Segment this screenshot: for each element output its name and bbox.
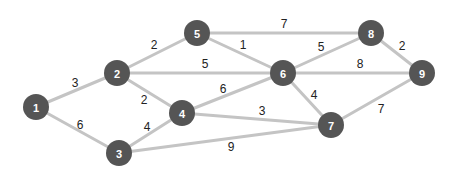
node-9: 9	[409, 60, 435, 86]
node-label: 4	[179, 108, 186, 120]
node-label: 9	[419, 68, 425, 80]
node-8: 8	[358, 20, 384, 46]
edge-weight-label-5-6: 1	[240, 38, 247, 52]
node-label: 5	[194, 28, 200, 40]
edge-weight-label-1-2: 3	[72, 76, 79, 90]
node-label: 7	[328, 120, 334, 132]
edge-weight-label-7-9: 7	[378, 102, 385, 116]
edge-labels-layer: 3625249637158427	[72, 17, 406, 154]
edge-weight-label-2-4: 2	[141, 93, 148, 107]
edge-weight-label-8-9: 2	[399, 39, 406, 53]
edge-weight-label-3-4: 4	[144, 120, 151, 134]
edge-weight-label-1-3: 6	[77, 118, 84, 132]
edge-weight-label-4-7: 3	[259, 104, 266, 118]
node-label: 3	[116, 148, 122, 160]
edge-weight-label-2-5: 2	[151, 38, 158, 52]
node-1: 1	[23, 94, 49, 120]
edge-weight-label-3-7: 9	[228, 140, 235, 154]
edge-3-7	[119, 125, 331, 153]
edge-weight-label-6-9: 8	[357, 57, 364, 71]
node-2: 2	[104, 60, 130, 86]
edge-7-9	[331, 73, 422, 125]
node-label: 1	[33, 102, 39, 114]
node-3: 3	[106, 140, 132, 166]
edge-4-6	[182, 73, 283, 113]
node-label: 6	[280, 68, 286, 80]
edge-weight-label-6-7: 4	[311, 88, 318, 102]
node-5: 5	[184, 20, 210, 46]
edge-weight-label-4-6: 6	[220, 82, 227, 96]
node-6: 6	[270, 60, 296, 86]
edge-4-7	[182, 113, 331, 125]
edges-layer	[36, 33, 422, 153]
node-4: 4	[169, 100, 195, 126]
edge-weight-label-6-8: 5	[318, 40, 325, 54]
node-label: 8	[368, 28, 374, 40]
node-7: 7	[318, 112, 344, 138]
edge-weight-label-2-6: 5	[202, 57, 209, 71]
weighted-graph-diagram: 3625249637158427 123456789	[0, 0, 455, 175]
node-label: 2	[114, 68, 120, 80]
edge-weight-label-5-8: 7	[281, 17, 288, 31]
